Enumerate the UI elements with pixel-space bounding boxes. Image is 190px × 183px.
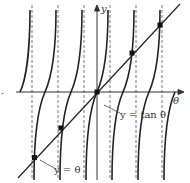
- tan-theta-figure: . y θ y = tan θ y = θ: [0, 0, 190, 183]
- y-axis-label: y: [101, 4, 107, 14]
- tan-curve-label: y = tan θ: [120, 110, 166, 120]
- stray-mark: .: [1, 86, 4, 96]
- pointer-identity: [40, 160, 54, 168]
- theta-axis-label: θ: [173, 96, 179, 106]
- plot-canvas: [0, 0, 190, 183]
- identity-line-label: y = θ: [54, 165, 80, 175]
